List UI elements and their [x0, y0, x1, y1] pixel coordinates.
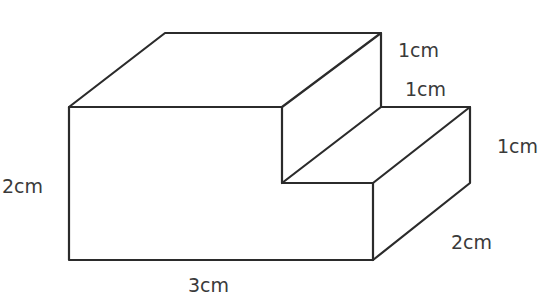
lower-step-top-face — [282, 107, 470, 183]
length-label: 3cm — [188, 274, 229, 296]
upper-top-face — [69, 33, 381, 107]
stepped-solid-diagram: 1cm 1cm 1cm 2cm 2cm 3cm — [0, 0, 557, 296]
upper-step-depth-label: 1cm — [405, 78, 446, 100]
upper-step-height-label: 1cm — [398, 39, 439, 61]
total-height-label: 2cm — [2, 175, 43, 197]
depth-label: 2cm — [451, 231, 492, 253]
front-face-outline — [69, 107, 373, 260]
lower-step-height-label: 1cm — [497, 135, 538, 157]
